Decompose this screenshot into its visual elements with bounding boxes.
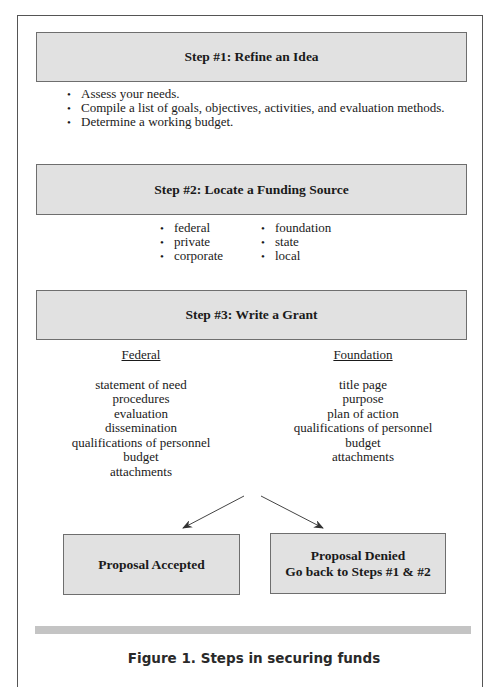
list-item: statement of need <box>41 378 241 393</box>
step-2-bullet-list-left: federal private corporate <box>160 221 223 263</box>
divider-bar <box>35 626 471 634</box>
list-item: attachments <box>263 450 463 465</box>
list-item: foundation <box>261 221 331 235</box>
list-item: private <box>160 235 223 249</box>
step-1-bullet-list: Assess your needs. Compile a list of goa… <box>67 87 445 129</box>
list-item: title page <box>263 378 463 393</box>
step-2-box: Step #2: Locate a Funding Source <box>36 164 467 215</box>
accepted-label: Proposal Accepted <box>98 557 205 573</box>
proposal-accepted-box: Proposal Accepted <box>63 534 240 595</box>
step-2-title: Step #2: Locate a Funding Source <box>154 182 348 198</box>
list-item: budget <box>263 436 463 451</box>
list-item: procedures <box>41 392 241 407</box>
step-1-box: Step #1: Refine an Idea <box>36 32 467 82</box>
list-item: qualifications of personnel <box>41 436 241 451</box>
list-item: state <box>261 235 331 249</box>
list-item: attachments <box>41 465 241 480</box>
list-item: corporate <box>160 249 223 263</box>
list-item: evaluation <box>41 407 241 422</box>
denied-label: Proposal Denied <box>311 548 406 564</box>
list-item: qualifications of personnel <box>263 421 463 436</box>
step-3-box: Step #3: Write a Grant <box>36 290 467 340</box>
foundation-column: Foundation title page purpose plan of ac… <box>263 348 463 465</box>
federal-column: Federal statement of need procedures eva… <box>41 348 241 479</box>
list-item: federal <box>160 221 223 235</box>
list-item: plan of action <box>263 407 463 422</box>
list-item: local <box>261 249 331 263</box>
list-item: purpose <box>263 392 463 407</box>
denied-instruction: Go back to Steps #1 & #2 <box>285 564 431 580</box>
list-item: dissemination <box>41 421 241 436</box>
foundation-heading: Foundation <box>263 348 463 363</box>
step-2-bullet-list-right: foundation state local <box>261 221 331 263</box>
figure-caption: Figure 1. Steps in securing funds <box>0 650 502 666</box>
step-1-title: Step #1: Refine an Idea <box>184 49 318 65</box>
federal-heading: Federal <box>41 348 241 363</box>
proposal-denied-box: Proposal Denied Go back to Steps #1 & #2 <box>270 533 446 594</box>
step-3-title: Step #3: Write a Grant <box>185 307 317 323</box>
list-item: Determine a working budget. <box>67 115 445 129</box>
list-item: Assess your needs. <box>67 87 445 101</box>
list-item: Compile a list of goals, objectives, act… <box>67 101 445 115</box>
list-item: budget <box>41 450 241 465</box>
